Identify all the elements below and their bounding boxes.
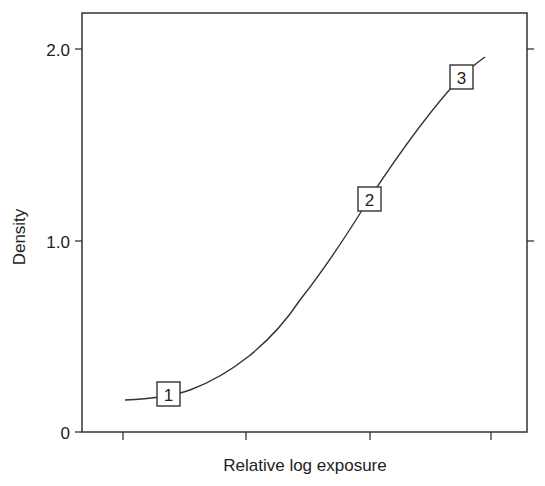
y-tick-label: 2.0 (46, 41, 70, 60)
point-marker-label: 3 (457, 69, 466, 88)
point-marker-3: 3 (450, 65, 473, 89)
characteristic-curve-chart: 0 1.0 2.0 Density Relative log exposure … (0, 0, 545, 486)
x-axis-label: Relative log exposure (223, 456, 386, 475)
density-curve (125, 57, 485, 400)
x-axis (123, 432, 491, 440)
point-marker-2: 2 (358, 187, 381, 211)
y-axis (75, 49, 82, 432)
point-marker-label: 1 (164, 386, 173, 405)
y-tick-label: 1.0 (46, 233, 70, 252)
y-axis-right-ticks (527, 49, 534, 241)
y-axis-label: Density (10, 208, 29, 265)
point-marker-1: 1 (157, 382, 180, 406)
y-tick-label: 0 (61, 424, 70, 443)
point-marker-label: 2 (365, 191, 374, 210)
